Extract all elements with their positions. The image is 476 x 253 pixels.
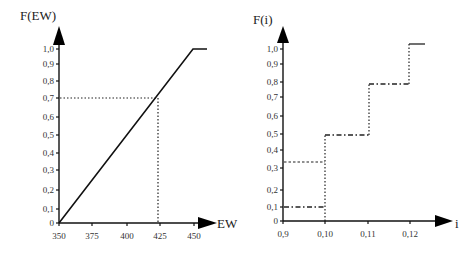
right-x-axis-title: i xyxy=(455,216,459,231)
right-y-tick-label: 0,8 xyxy=(267,77,279,87)
right-y-tick-label: 0,3 xyxy=(267,163,279,173)
right-x-tick-label: 0,11 xyxy=(360,229,375,239)
left-x-tick-label: 400 xyxy=(120,231,134,241)
right-y-tick-label: 0,2 xyxy=(267,185,278,195)
left-x-ticks: 350375400425450 xyxy=(52,223,201,241)
right-x-tick-label: 0,12 xyxy=(402,229,418,239)
left-y-tick-label: 0,6 xyxy=(43,112,55,122)
left-y-ticks: 00,10,20,30,40,50,60,70,80,91,0 xyxy=(43,44,59,228)
left-x-tick-label: 425 xyxy=(153,231,167,241)
right-x-ticks: 0,90,100,110,12 xyxy=(277,221,418,239)
right-y-axis-title: F(i) xyxy=(253,12,273,27)
left-x-tick-label: 350 xyxy=(52,231,66,241)
left-x-tick-label: 450 xyxy=(187,231,201,241)
right-y-tick-label: 0,6 xyxy=(267,111,279,121)
left-y-tick-label: 0,2 xyxy=(43,185,54,195)
left-x-axis-title: EW xyxy=(217,216,238,231)
left-x-axis-arrow-icon xyxy=(198,217,217,229)
right-chart: F(i) i 00,10,20,30,40,50,60,70,80,91,0 0… xyxy=(253,12,459,239)
right-x-tick-label: 0,10 xyxy=(317,229,333,239)
right-y-tick-label: 0,9 xyxy=(267,59,279,69)
left-y-tick-label: 0,8 xyxy=(43,76,55,86)
left-y-tick-label: 0,1 xyxy=(43,204,54,214)
left-y-tick-label: 0 xyxy=(50,218,55,228)
left-y-tick-label: 0,7 xyxy=(43,93,55,103)
figure: F(EW) EW 00,10,20,30,40,50,60,70,80,91,0… xyxy=(0,0,476,253)
right-y-tick-label: 0,7 xyxy=(267,92,279,102)
right-y-axis-arrow-icon xyxy=(277,26,289,43)
left-y-tick-label: 1,0 xyxy=(43,44,55,54)
right-y-tick-label: 0 xyxy=(274,216,279,226)
left-cdf-line xyxy=(59,49,207,223)
left-y-tick-label: 0,3 xyxy=(43,165,55,175)
right-y-tick-label: 0,1 xyxy=(267,202,278,212)
left-y-axis-arrow-icon xyxy=(53,26,65,45)
right-x-tick-label: 0,9 xyxy=(277,229,289,239)
left-x-tick-label: 375 xyxy=(85,231,99,241)
right-y-ticks: 00,10,20,30,40,50,60,70,80,91,0 xyxy=(267,44,283,226)
left-y-axis-title: F(EW) xyxy=(20,8,56,23)
left-y-tick-label: 0,5 xyxy=(43,130,55,140)
right-y-tick-label: 0,5 xyxy=(267,129,279,139)
left-y-tick-label: 0,4 xyxy=(43,148,55,158)
left-chart: F(EW) EW 00,10,20,30,40,50,60,70,80,91,0… xyxy=(20,8,238,241)
left-y-tick-label: 0,9 xyxy=(43,59,55,69)
right-y-tick-label: 1,0 xyxy=(267,44,279,54)
right-x-axis-arrow-icon xyxy=(435,215,453,227)
right-y-tick-label: 0,4 xyxy=(267,145,279,155)
